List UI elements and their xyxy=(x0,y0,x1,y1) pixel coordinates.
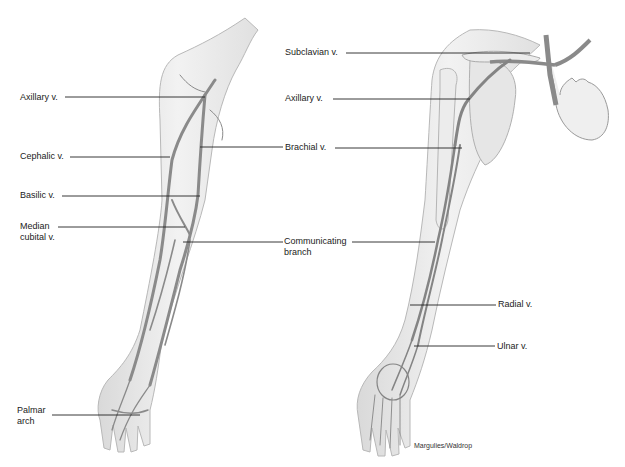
label-basilic-vein: Basilic v. xyxy=(20,190,55,200)
anatomy-diagram: Axillary v. Cephalic v. Basilic v. Media… xyxy=(0,0,625,467)
label-palmar-arch-line1: Palmar xyxy=(17,405,46,415)
label-ulnar-vein: Ulnar v. xyxy=(497,341,527,351)
label-subclavian-vein: Subclavian v. xyxy=(285,47,338,57)
label-communicating-branch-line1: Communicating xyxy=(284,236,347,246)
label-median-cubital-vein-line1: Median xyxy=(20,221,50,231)
label-axillary-vein-left: Axillary v. xyxy=(20,92,58,102)
arm-illustrations xyxy=(0,0,625,467)
label-communicating-branch-line2: branch xyxy=(284,247,312,257)
label-cephalic-vein: Cephalic v. xyxy=(20,151,64,161)
label-radial-vein: Radial v. xyxy=(498,299,532,309)
illustrator-credit: Margulies/Waldrop xyxy=(414,442,472,449)
label-brachial-vein: Brachial v. xyxy=(285,142,326,152)
right-arm-figure xyxy=(357,30,608,456)
label-median-cubital-vein-line2: cubital v. xyxy=(20,232,55,242)
left-arm-figure xyxy=(98,18,258,452)
label-axillary-vein-right: Axillary v. xyxy=(285,93,323,103)
label-palmar-arch-line2: arch xyxy=(17,416,35,426)
